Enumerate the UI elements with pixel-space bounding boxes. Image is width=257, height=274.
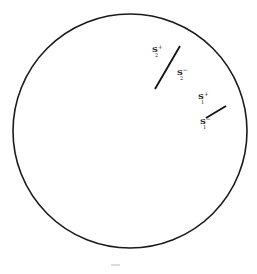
label-s2-minus: S− 2: [177, 57, 193, 81]
label-s1-plus: S+ 1: [198, 81, 214, 105]
diagram-canvas: S+ 2 S− 2 S+ 1 S− 1: [0, 0, 257, 274]
label-s1-minus: S− 1: [200, 106, 216, 130]
boundary-circle: [13, 14, 247, 248]
label-s2-plus: S+ 2: [152, 34, 168, 58]
